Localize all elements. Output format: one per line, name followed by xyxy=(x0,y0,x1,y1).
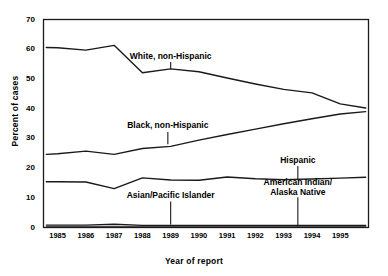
annotation-amind-line1: American Indian/ xyxy=(264,177,333,187)
annotation-amind-line2: Alaska Native xyxy=(264,187,333,197)
series-line-3 xyxy=(46,224,365,225)
chart-container: Percent of cases Year of report 01020304… xyxy=(0,0,388,276)
series-line-1 xyxy=(46,112,365,155)
plot-area xyxy=(0,0,388,276)
annotation-black: Black, non-Hispanic xyxy=(127,120,208,130)
annotation-asian: Asian/Pacific Islander xyxy=(127,190,215,200)
annotation-hispanic: Hispanic xyxy=(280,155,315,165)
annotation-amind: American Indian/Alaska Native xyxy=(264,177,333,197)
annotation-white: White, non-Hispanic xyxy=(130,51,212,61)
